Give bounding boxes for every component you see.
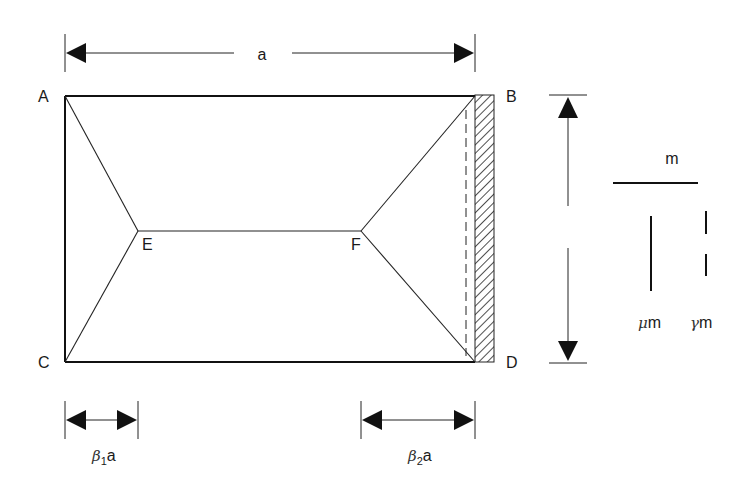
yield-lines [65,96,475,362]
legend-gamma-label: γm [690,314,712,332]
arrow-right-icon [117,410,137,430]
arrow-left-icon [66,43,86,63]
arrow-right-icon [454,43,474,63]
node-d-label: D [506,354,518,371]
yield-line-diagram: a A B C D E F β1a [0,0,749,492]
arrow-down-icon [558,341,578,361]
dimension-height [549,95,587,363]
moment-legend: m μm γm [613,150,712,332]
beta2-label: β2a [407,447,432,467]
arrow-up-icon [558,97,578,118]
dimension-a: a [65,34,475,72]
node-a-label: A [38,88,49,105]
clamped-edge-hatch [475,95,494,362]
node-e-label: E [142,236,153,253]
node-b-label: B [506,88,517,105]
arrow-right-icon [454,410,474,430]
arrow-left-icon [362,410,382,430]
node-c-label: C [38,354,50,371]
node-f-label: F [351,236,361,253]
legend-m-label: m [665,150,678,167]
legend-mu-label: μm [638,314,661,332]
beta1-label: β1a [91,447,116,467]
slab-outline [65,96,475,362]
dimension-beta1: β1a [65,401,138,467]
arrow-left-icon [66,410,86,430]
dimension-a-label: a [258,46,267,63]
dimension-beta2: β2a [361,401,475,467]
